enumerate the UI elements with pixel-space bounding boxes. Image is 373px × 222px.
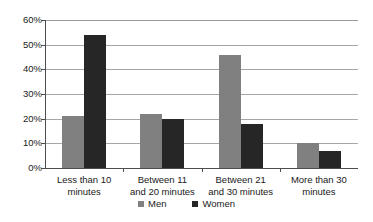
bar-chart: 60% 50% 40% 30% 20% 10% 0% — [0, 0, 373, 222]
x-category-label-3-line1: More than 30 — [280, 174, 358, 186]
x-category-label-3: More than 30 minutes — [280, 174, 358, 197]
bar-men-0 — [62, 116, 84, 168]
bar-men-1 — [140, 114, 162, 168]
x-category-label-2-line2: and 30 minutes — [202, 186, 280, 198]
bar-group-0 — [45, 20, 123, 168]
x-tick-mark-3 — [280, 168, 281, 172]
y-tick-label-40: 40% — [2, 64, 42, 74]
y-axis: 60% 50% 40% 30% 20% 10% 0% — [0, 20, 42, 168]
legend-label-men: Men — [148, 199, 166, 209]
legend-swatch-women-icon — [192, 201, 198, 207]
x-category-label-1-line1: Between 11 — [123, 174, 201, 186]
x-category-label-1-line2: and 20 minutes — [123, 186, 201, 198]
bar-women-0 — [84, 35, 106, 168]
y-tick-label-10: 10% — [2, 138, 42, 148]
legend-label-women: Women — [202, 199, 235, 209]
bar-group-1 — [123, 20, 201, 168]
y-tick-label-60: 60% — [2, 15, 42, 25]
y-tick-label-30: 30% — [2, 89, 42, 99]
x-tick-mark-1 — [123, 168, 124, 172]
plot-area — [45, 20, 358, 168]
y-tick-label-50: 50% — [2, 40, 42, 50]
bar-women-3 — [319, 151, 341, 168]
y-tick-label-20: 20% — [2, 114, 42, 124]
x-category-label-1: Between 11 and 20 minutes — [123, 174, 201, 197]
y-tick-label-0: 0% — [2, 163, 42, 173]
bar-women-2 — [241, 124, 263, 168]
bar-men-2 — [219, 55, 241, 168]
bar-group-3 — [280, 20, 358, 168]
x-category-label-2-line1: Between 21 — [202, 174, 280, 186]
bar-women-1 — [162, 119, 184, 168]
x-category-label-0-line2: minutes — [45, 186, 123, 198]
bar-group-2 — [202, 20, 280, 168]
x-category-label-3-line2: minutes — [280, 186, 358, 198]
chart-legend: Men Women — [0, 199, 373, 209]
x-category-label-2: Between 21 and 30 minutes — [202, 174, 280, 197]
legend-entry-men[interactable]: Men — [138, 199, 166, 209]
bar-men-3 — [297, 143, 319, 168]
legend-swatch-men-icon — [138, 201, 144, 207]
legend-entry-women[interactable]: Women — [192, 199, 235, 209]
x-category-label-0: Less than 10 minutes — [45, 174, 123, 197]
y-axis-line — [45, 20, 46, 168]
x-category-label-0-line1: Less than 10 — [45, 174, 123, 186]
x-tick-mark-2 — [202, 168, 203, 172]
